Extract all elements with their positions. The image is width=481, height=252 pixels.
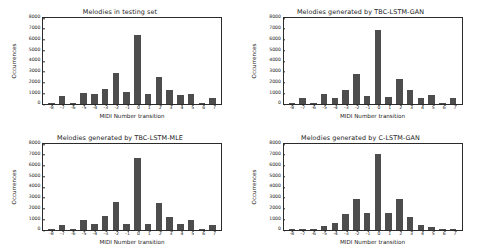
x-tick-label: -5 <box>322 104 327 111</box>
bar <box>102 216 109 231</box>
y-tick-label: 1000 <box>29 91 43 96</box>
y-tick-label: 7000 <box>269 26 283 31</box>
bar-slot <box>132 144 143 230</box>
x-tick-label: -1 <box>366 230 371 237</box>
y-tick-label: 0 <box>37 102 43 107</box>
bar-slot <box>319 144 330 230</box>
bar-slot <box>154 18 165 104</box>
y-tick-label: 2000 <box>29 80 43 85</box>
bar-slot <box>143 144 154 230</box>
y-tick-label: 6000 <box>29 37 43 42</box>
bar-slot <box>437 144 448 230</box>
bar-slot <box>405 144 416 230</box>
bar-slot <box>186 18 197 104</box>
bar <box>134 158 141 230</box>
bar-slot <box>297 144 308 230</box>
bar-slot <box>57 144 68 230</box>
bar-slot <box>100 144 111 230</box>
bar <box>80 220 87 230</box>
x-tick-label: 3 <box>170 230 173 237</box>
x-axis-label: MIDI Number transition <box>42 113 222 119</box>
x-tick-label: 4 <box>180 230 183 237</box>
x-tick-label: -7 <box>60 104 65 111</box>
bar-slot <box>121 144 132 230</box>
bar-slot <box>121 18 132 104</box>
bar-slot <box>89 18 100 104</box>
bar-slot <box>351 18 362 104</box>
bar <box>188 220 195 230</box>
y-tick-label: 8000 <box>269 16 283 21</box>
bar <box>188 94 195 104</box>
y-tick-label: 0 <box>278 228 284 233</box>
bar <box>332 223 339 230</box>
bar <box>321 94 328 104</box>
x-tick-label: 7 <box>213 230 216 237</box>
bar <box>396 199 403 230</box>
bar-slot <box>426 18 437 104</box>
bar-slot <box>111 18 122 104</box>
bar <box>385 97 392 104</box>
panel-tbc-lstm-mle: Melodies generated by TBC-LSTM-MLE Occur… <box>0 126 240 252</box>
bar <box>364 213 371 230</box>
bar-slot <box>46 144 57 230</box>
y-tick-label: 5000 <box>269 48 283 53</box>
x-tick-label: 5 <box>432 104 435 111</box>
y-tick-label: 5000 <box>269 174 283 179</box>
bar <box>375 30 382 104</box>
bar <box>145 94 152 104</box>
x-tick-label: 1 <box>388 230 391 237</box>
x-tick-label: 0 <box>377 230 380 237</box>
x-tick-label: 7 <box>454 230 457 237</box>
bar-slot <box>78 144 89 230</box>
x-tick-label: -2 <box>114 104 119 111</box>
bars-container <box>284 18 462 104</box>
x-tick-label: -6 <box>71 230 76 237</box>
bar <box>342 214 349 230</box>
bar-slot <box>405 18 416 104</box>
bar-slot <box>448 144 459 230</box>
bar-slot <box>287 144 298 230</box>
x-tick-label: 1 <box>148 104 151 111</box>
x-tick-label: -7 <box>301 104 306 111</box>
bar-slot <box>143 18 154 104</box>
bar <box>385 213 392 230</box>
x-tick-label: 3 <box>410 230 413 237</box>
x-tick-label: 6 <box>202 230 205 237</box>
y-tick-label: 2000 <box>269 206 283 211</box>
x-tick-label: -2 <box>355 104 360 111</box>
bar-slot <box>57 18 68 104</box>
bar <box>407 90 414 104</box>
x-tick-label: 6 <box>443 104 446 111</box>
bar-slot <box>426 144 437 230</box>
x-tick-label: 6 <box>443 230 446 237</box>
bar-slot <box>68 144 79 230</box>
bar <box>407 217 414 230</box>
bar <box>59 96 66 104</box>
x-tick-label: 7 <box>454 104 457 111</box>
bar <box>375 154 382 230</box>
bar-slot <box>197 18 208 104</box>
y-tick-label: 3000 <box>29 195 43 200</box>
x-tick-label: -3 <box>104 104 109 111</box>
panel-tbc-lstm-gan: Melodies generated by TBC-LSTM-GAN Occur… <box>241 0 481 126</box>
bar-slot <box>186 144 197 230</box>
y-tick-label: 3000 <box>269 195 283 200</box>
y-axis-label: Occurrences <box>9 143 19 231</box>
bar-slot <box>383 144 394 230</box>
x-tick-label: 2 <box>399 230 402 237</box>
bar-slot <box>197 144 208 230</box>
x-tick-label: -5 <box>322 230 327 237</box>
bar <box>91 94 98 104</box>
bar-slot <box>78 18 89 104</box>
y-tick-label: 7000 <box>29 26 43 31</box>
x-tick-label: -6 <box>311 230 316 237</box>
bar-slot <box>207 18 218 104</box>
bar-slot <box>297 18 308 104</box>
x-tick-label: -4 <box>333 230 338 237</box>
x-tick-label: 5 <box>191 230 194 237</box>
panel-testing-set: Melodies in testing set Occurrences 0100… <box>0 0 240 126</box>
bar-slot <box>68 18 79 104</box>
y-tick-label: 6000 <box>29 163 43 168</box>
bar <box>113 202 120 230</box>
bar <box>80 93 87 104</box>
